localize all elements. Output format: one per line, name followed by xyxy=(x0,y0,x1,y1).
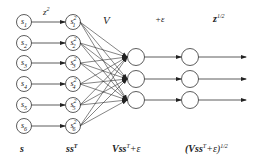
square-arrows xyxy=(32,22,66,126)
linear-layer xyxy=(128,49,145,109)
linear-node-1 xyxy=(128,49,145,66)
square-node-label: s25 xyxy=(70,101,75,109)
sqrt-output-label: (VssT+ε)1/2 xyxy=(185,144,228,154)
square-node-label: s22 xyxy=(70,39,75,47)
epsilon-arrows xyxy=(145,57,182,100)
linear-node-2 xyxy=(128,71,145,88)
linear-node-3 xyxy=(128,92,145,109)
input-node-label: s2 xyxy=(21,39,27,47)
weights-label: V xyxy=(103,15,110,26)
square-layer xyxy=(66,15,81,134)
square-node-label: s24 xyxy=(70,80,75,88)
sqrt-node-2 xyxy=(182,71,199,88)
input-node-label: s6 xyxy=(21,122,27,130)
square-node-label: s21 xyxy=(70,18,75,26)
add-epsilon-label: +ε xyxy=(155,15,165,24)
sqrt-node-1 xyxy=(182,49,199,66)
sqrt-op-label: z1/2 xyxy=(213,14,225,24)
weight-connections xyxy=(80,22,127,126)
square-op-label: z2 xyxy=(43,8,50,17)
input-layer xyxy=(17,15,32,134)
sqrt-node-3 xyxy=(182,92,199,109)
input-node-label: s4 xyxy=(21,80,27,88)
input-node-label: s5 xyxy=(21,101,27,109)
linear-output-label: VssT+ε xyxy=(112,144,141,154)
input-node-label: s3 xyxy=(21,59,27,67)
square-node-label: s26 xyxy=(70,122,75,130)
output-arrows xyxy=(199,57,247,100)
square-node-label: s23 xyxy=(70,59,75,67)
outer-product-label: ssT xyxy=(66,144,77,154)
input-node-label: s1 xyxy=(21,18,27,26)
sqrt-layer xyxy=(182,49,199,109)
input-vector-label: s xyxy=(20,144,24,154)
